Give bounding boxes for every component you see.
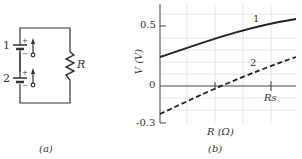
svg-text:−: − (22, 82, 28, 90)
y-tick-0.5: 0.5 (140, 19, 156, 30)
battery-1-label: 1 (3, 39, 10, 52)
svg-text:+: + (22, 37, 28, 45)
curve-1-label: 1 (253, 13, 259, 24)
caption-b: (b) (208, 143, 222, 154)
y-tick-neg0.3: -0.3 (136, 117, 155, 128)
curve-2-label: 2 (250, 57, 256, 68)
battery-2-label: 2 (3, 72, 10, 85)
y-axis-label: V (V) (133, 49, 144, 74)
caption-a: (a) (39, 143, 53, 154)
rs-label: Rs (264, 92, 277, 103)
x-axis-label: R (Ω) (207, 126, 234, 137)
resistor-label: R (77, 58, 85, 71)
y-tick-0: 0 (149, 79, 155, 90)
svg-text:+: + (22, 69, 28, 77)
svg-text:−: − (22, 50, 28, 58)
